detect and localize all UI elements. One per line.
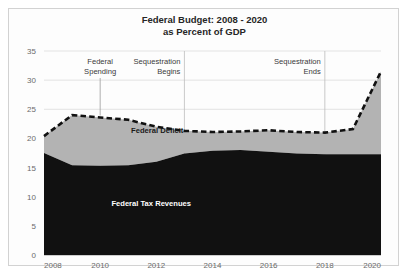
y-tick-5: 5 <box>32 222 37 231</box>
chart-canvas: Federal Budget: 2008 - 2020 as Percent o… <box>0 0 409 276</box>
inline-label-federal-tax-revenues: Federal Tax Revenues <box>111 199 191 208</box>
annotation-sequestration-ends-line2: Ends <box>304 67 322 76</box>
x-tick-2018: 2018 <box>316 261 334 270</box>
federal-tax-revenues-area <box>44 150 381 255</box>
chart-title: Federal Budget: 2008 - 2020 <box>142 14 268 25</box>
y-tick-30: 30 <box>27 76 36 85</box>
annotation-sequestration-begins-line1: Sequestration <box>134 57 181 66</box>
x-tick-2012: 2012 <box>147 261 165 270</box>
annotation-federal-spending-line1: Federal <box>87 57 113 66</box>
x-tick-2014: 2014 <box>204 261 222 270</box>
chart-annotations: FederalSpendingSequestrationBeginsSeques… <box>84 57 321 115</box>
x-tick-2016: 2016 <box>260 261 278 270</box>
x-tick-2010: 2010 <box>91 261 109 270</box>
y-tick-25: 25 <box>27 105 36 114</box>
y-tick-0: 0 <box>32 251 37 260</box>
y-tick-10: 10 <box>27 193 36 202</box>
y-axis-tick-labels: 05101520253035 <box>27 47 36 260</box>
y-tick-15: 15 <box>27 164 36 173</box>
annotation-sequestration-ends-line1: Sequestration <box>274 57 321 66</box>
x-tick-2020: 2020 <box>363 261 381 270</box>
y-tick-35: 35 <box>27 47 36 56</box>
inline-label-federal-deficit: Federal Deficit <box>131 126 184 135</box>
annotation-sequestration-begins-line2: Begins <box>157 67 180 76</box>
annotation-federal-spending-line2: Spending <box>84 67 116 76</box>
x-tick-2008: 2008 <box>44 261 62 270</box>
chart-subtitle: as Percent of GDP <box>163 26 247 37</box>
x-axis-tick-labels: 2008201020122014201620182020 <box>44 261 382 270</box>
y-tick-20: 20 <box>27 134 36 143</box>
federal-budget-chart: Federal Budget: 2008 - 2020 as Percent o… <box>0 0 409 276</box>
